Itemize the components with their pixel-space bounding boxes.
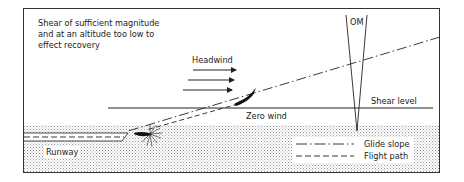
shear-level-label: Shear level xyxy=(371,96,417,106)
windshear-diagram: Runway Shear of sufficient magnitude and… xyxy=(0,0,464,182)
om-label: OM xyxy=(350,17,364,27)
zero-wind-label: Zero wind xyxy=(246,111,287,121)
caption-line-3: effect recovery xyxy=(38,40,100,50)
legend-glide-slope-label: Glide slope xyxy=(364,139,410,149)
caption-line-2: and at an altitude too low to xyxy=(38,29,154,39)
legend: Glide slope Flight path xyxy=(292,137,414,163)
headwind-arrows xyxy=(183,70,236,90)
legend-flight-path-label: Flight path xyxy=(364,151,408,161)
aircraft-icon xyxy=(234,88,256,106)
runway xyxy=(24,133,128,141)
headwind-label: Headwind xyxy=(192,55,233,65)
runway-label: Runway xyxy=(46,147,78,157)
outer-marker-beam xyxy=(346,15,367,131)
caption-line-1: Shear of sufficient magnitude xyxy=(38,18,159,28)
